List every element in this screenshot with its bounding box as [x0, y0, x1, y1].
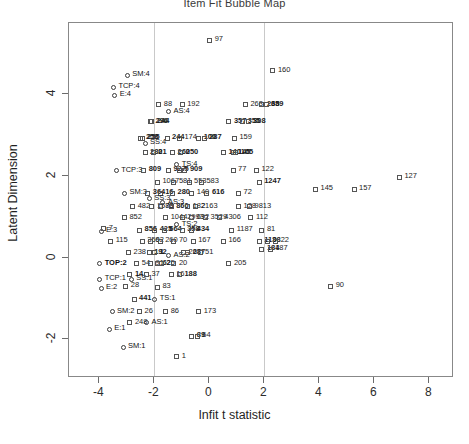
data-point-label: 90	[336, 280, 344, 289]
data-point-label: 280	[178, 187, 191, 196]
square-marker-icon	[130, 204, 135, 209]
data-point-label: 852	[129, 212, 142, 221]
data-point-label: 28	[131, 280, 139, 289]
circle-marker-icon	[125, 73, 130, 78]
data-point-label: 51	[205, 247, 213, 256]
square-marker-icon	[202, 136, 207, 141]
square-marker-icon	[148, 239, 153, 244]
square-marker-icon	[159, 261, 164, 266]
data-point-label: 145	[321, 183, 334, 192]
chart-title: Item Fit Bubble Map	[0, 0, 469, 10]
square-marker-icon	[257, 180, 262, 185]
circle-marker-icon	[121, 345, 126, 350]
data-point-label: SM:1	[128, 341, 146, 350]
data-point-label: 4306	[224, 212, 241, 221]
x-tick-label: -4	[93, 385, 104, 399]
square-marker-icon	[127, 320, 132, 325]
square-marker-icon	[270, 68, 275, 73]
data-point-label: 160	[278, 65, 291, 74]
circle-marker-icon	[99, 286, 104, 291]
square-marker-icon	[149, 119, 154, 124]
y-tick-label: -2	[44, 331, 58, 345]
y-tick-0	[62, 257, 68, 258]
data-point-label: 287	[209, 132, 222, 141]
square-marker-icon	[243, 102, 248, 107]
x-tick-4	[318, 377, 319, 383]
data-point-label: 482	[138, 201, 151, 210]
square-marker-icon	[143, 150, 148, 155]
square-marker-icon	[196, 309, 201, 314]
data-point-label: 77	[238, 164, 246, 173]
square-marker-icon	[204, 191, 209, 196]
x-tick-label: 4	[315, 385, 322, 399]
data-point-label: 1	[182, 351, 186, 360]
square-marker-icon	[149, 204, 154, 209]
data-point-label: 122	[261, 164, 274, 173]
data-point-label: 112	[256, 212, 268, 221]
data-point-label: 166	[228, 235, 241, 244]
square-marker-icon	[108, 239, 113, 244]
square-marker-icon	[352, 187, 357, 192]
data-point-label: 9813	[255, 201, 272, 210]
square-marker-icon	[264, 102, 269, 107]
data-point-label: 250	[186, 147, 199, 156]
data-point-label: 173	[204, 306, 217, 315]
data-point-label: 167	[198, 235, 211, 244]
data-point-label: SM:2	[117, 306, 135, 315]
square-marker-icon	[155, 180, 160, 185]
x-tick-label: 2	[260, 385, 267, 399]
x-tick-0	[208, 377, 209, 383]
square-marker-icon	[196, 136, 201, 141]
square-marker-icon	[191, 239, 196, 244]
data-point-label: 127	[404, 171, 417, 180]
square-marker-icon	[162, 228, 167, 233]
y-tick-label: 0	[44, 250, 58, 264]
square-marker-icon	[247, 204, 252, 209]
x-tick-label: 0	[205, 385, 212, 399]
data-point-label: 70	[179, 235, 187, 244]
data-point-label: AS:4	[173, 106, 189, 115]
square-marker-icon	[259, 247, 264, 252]
data-point-label: 26	[145, 306, 153, 315]
data-point-label: TCP:3	[121, 165, 142, 174]
square-marker-icon	[203, 215, 208, 220]
square-marker-icon	[158, 239, 163, 244]
x-tick-label: -2	[148, 385, 159, 399]
square-marker-icon	[169, 204, 174, 209]
square-marker-icon	[145, 191, 150, 196]
data-point-label: E:1	[114, 323, 125, 332]
square-marker-icon	[155, 285, 160, 290]
square-marker-icon	[101, 226, 106, 231]
square-marker-icon	[140, 239, 145, 244]
square-marker-icon	[182, 168, 187, 173]
circle-marker-icon	[110, 309, 115, 314]
square-marker-icon	[226, 261, 231, 266]
square-marker-icon	[163, 215, 168, 220]
data-point-label: 1	[160, 247, 164, 256]
data-point-label: 165	[241, 147, 254, 156]
circle-marker-icon	[107, 327, 112, 332]
y-tick-label: 2	[44, 168, 58, 182]
square-marker-icon	[240, 119, 245, 124]
data-point-label: 72	[244, 187, 252, 196]
circle-marker-icon	[97, 277, 102, 282]
x-tick--2	[153, 377, 154, 383]
square-marker-icon	[226, 119, 231, 124]
square-marker-icon	[151, 150, 156, 155]
square-marker-icon	[185, 204, 190, 209]
square-marker-icon	[165, 136, 170, 141]
data-point-label: 188	[184, 269, 197, 278]
square-marker-icon	[156, 102, 161, 107]
square-marker-icon	[144, 272, 149, 277]
square-marker-icon	[236, 204, 241, 209]
square-marker-icon	[397, 175, 402, 180]
square-marker-icon	[236, 191, 241, 196]
data-point-label: 238	[134, 247, 147, 256]
data-point-label: 187	[275, 243, 288, 252]
chart-canvas: Item Fit Bubble Map 97160SM:4TCP:4E:4881…	[0, 0, 469, 444]
square-marker-icon	[123, 284, 128, 289]
square-marker-icon	[233, 150, 238, 155]
y-axis-label: Latent Dimension	[6, 118, 20, 268]
circle-marker-icon	[122, 191, 127, 196]
square-marker-icon	[171, 180, 176, 185]
